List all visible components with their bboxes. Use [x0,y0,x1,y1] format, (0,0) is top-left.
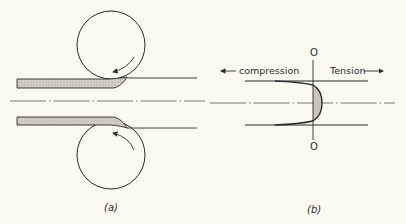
lower-roll [77,121,145,189]
panel-a [10,11,205,189]
upper-strip-layer [17,77,127,88]
figure-canvas [0,0,406,224]
caption-a: (a) [104,203,118,213]
lower-roll-rotation-arrow-icon [113,133,134,150]
axis-top-label: O [310,48,318,58]
upper-roll [77,11,145,79]
tension-label: Tension [330,66,365,76]
caption-b: (b) [307,205,321,215]
axis-bottom-label: O [310,142,318,152]
tension-region [313,85,322,121]
panel-b [210,60,395,140]
lower-strip-layer [17,117,127,128]
upper-roll-rotation-arrow-icon [113,57,134,72]
compression-label: compression [239,66,299,76]
